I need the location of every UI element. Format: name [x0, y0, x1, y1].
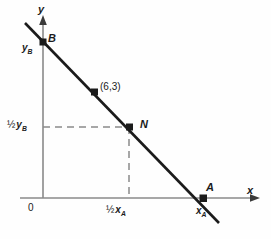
- x-intercept-label: xA: [196, 206, 206, 219]
- point-label-6-3: (6,3): [100, 82, 121, 92]
- x-axis-label: x: [247, 185, 253, 196]
- point-label-N: N: [140, 119, 148, 130]
- point-marker-N: [126, 124, 133, 131]
- half-y-subscript: B: [22, 125, 27, 132]
- point-marker-B: [40, 39, 47, 46]
- half-x-intercept-label: ½xA: [106, 205, 126, 218]
- half-x-subscript: A: [121, 210, 126, 217]
- origin-label: 0: [28, 203, 34, 213]
- half-x-fraction: ½: [106, 204, 115, 215]
- y-intercept-subscript: B: [28, 48, 33, 55]
- line-graph-figure: y x B yB (6,3) ½yB N 0 ½xA xA A: [0, 0, 271, 239]
- line-AB: [25, 23, 219, 223]
- y-axis-arrowhead: [39, 15, 47, 25]
- guide-lines-group: [43, 127, 129, 199]
- y-axis-label: y: [38, 4, 44, 15]
- axes-group: [20, 15, 260, 202]
- point-marker-A: [200, 195, 208, 203]
- y-intercept-label: yB: [22, 43, 32, 56]
- point-label-A: A: [206, 182, 214, 193]
- x-intercept-subscript: A: [202, 211, 207, 218]
- half-y-intercept-label: ½yB: [7, 120, 27, 133]
- point-marker-6-3: [91, 89, 98, 96]
- point-label-B: B: [48, 33, 56, 44]
- figure-canvas: [0, 0, 271, 239]
- half-y-fraction: ½: [7, 119, 16, 130]
